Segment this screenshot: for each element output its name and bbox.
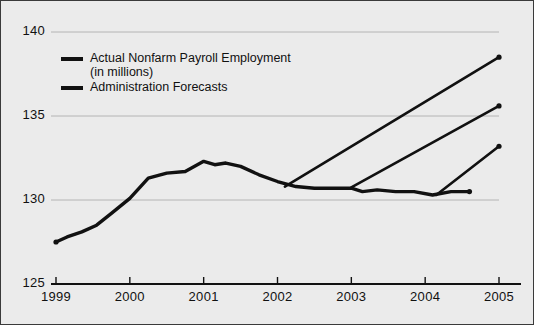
series-line xyxy=(351,106,499,187)
data-point-marker xyxy=(467,189,472,194)
series-line xyxy=(436,146,499,195)
legend-item: Actual Nonfarm Payroll Employment (in mi… xyxy=(61,51,311,79)
employment-forecast-chart: 140135130125 199920002001200220032004200… xyxy=(0,0,534,325)
chart-legend: Actual Nonfarm Payroll Employment (in mi… xyxy=(61,51,311,95)
x-axis-tick-label: 2002 xyxy=(253,289,303,304)
x-axis-tick-label: 2003 xyxy=(326,289,376,304)
legend-label-forecast: Administration Forecasts xyxy=(90,80,228,94)
legend-item: Administration Forecasts xyxy=(61,80,311,94)
data-point-marker xyxy=(53,239,58,244)
y-axis-tick-label: 130 xyxy=(9,191,45,206)
legend-label-actual: Actual Nonfarm Payroll Employment (in mi… xyxy=(90,51,291,79)
y-axis-tick-label: 140 xyxy=(9,23,45,38)
x-axis-tick-label: 2000 xyxy=(105,289,155,304)
legend-line-swatch-actual xyxy=(61,57,83,61)
x-axis-tick-label: 2001 xyxy=(179,289,229,304)
x-axis-tick-label: 2005 xyxy=(474,289,524,304)
y-axis-tick-label: 135 xyxy=(9,107,45,122)
data-point-marker xyxy=(496,103,501,108)
chart-plot-area xyxy=(1,1,534,325)
data-point-marker xyxy=(496,55,501,60)
x-axis-tick-label: 2004 xyxy=(400,289,450,304)
x-axis-tick-label: 1999 xyxy=(31,289,81,304)
data-point-marker xyxy=(496,144,501,149)
series-line xyxy=(285,57,499,186)
y-axis-tick-label: 125 xyxy=(9,275,45,290)
series-line xyxy=(56,161,469,242)
legend-line-swatch-forecast xyxy=(61,86,83,90)
